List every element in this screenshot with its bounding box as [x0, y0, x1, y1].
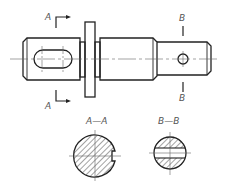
left-neck [80, 42, 85, 77]
section-a-marker-top: A [44, 12, 71, 28]
section-a-marker-bottom: A [44, 90, 71, 111]
flange [85, 22, 95, 97]
section-b-label-bottom: B [179, 93, 185, 103]
section-b-b-title: B—B [158, 116, 179, 126]
right-neck [95, 42, 100, 77]
section-b-b-view: B—B [149, 116, 191, 175]
shaft-drawing: A A B B A—A B—B [0, 0, 229, 189]
section-b-label-top: B [179, 13, 185, 23]
section-b-marker-top: B [179, 13, 185, 36]
section-a-a-title: A—A [85, 116, 107, 126]
section-b-marker-bottom: B [179, 82, 185, 103]
right-shaft-body [157, 42, 211, 75]
section-a-a-view: A—A [69, 116, 121, 181]
section-a-label-bottom: A [44, 101, 51, 111]
section-a-label-top: A [44, 12, 51, 22]
